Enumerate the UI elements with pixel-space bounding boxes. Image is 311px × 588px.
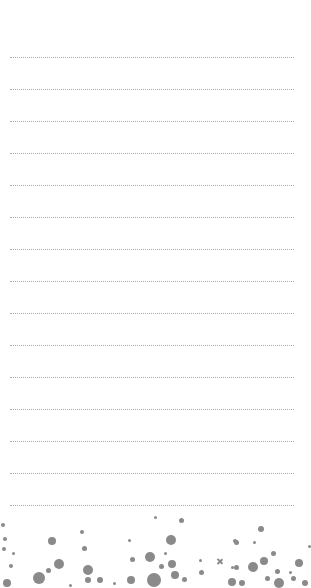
confetti-decoration (0, 0, 310, 586)
ruled-line (10, 313, 294, 314)
confetti-dot-icon (48, 537, 56, 545)
confetti-dot-icon (97, 577, 103, 583)
confetti-dot-icon (199, 559, 202, 562)
ruled-line (10, 89, 294, 90)
ruled-line (10, 153, 294, 154)
confetti-dot-icon (233, 539, 237, 543)
confetti-dot-icon (33, 572, 45, 584)
confetti-dot-icon (54, 559, 64, 569)
confetti-dot-icon (127, 576, 135, 584)
confetti-dot-icon (3, 579, 11, 587)
confetti-dot-icon (2, 547, 6, 551)
confetti-dot-icon (12, 552, 15, 555)
confetti-dot-icon (166, 535, 176, 545)
confetti-dot-icon (69, 584, 72, 587)
confetti-cross-icon (216, 558, 223, 565)
ruled-line (10, 185, 294, 186)
confetti-dot-icon (199, 570, 204, 575)
ruled-line (10, 249, 294, 250)
confetti-dot-icon (295, 559, 303, 567)
confetti-dot-icon (171, 571, 179, 579)
confetti-dot-icon (234, 565, 239, 570)
ruled-line (10, 217, 294, 218)
confetti-dot-icon (145, 552, 155, 562)
confetti-dot-icon (271, 551, 276, 556)
confetti-dot-icon (228, 578, 236, 586)
ruled-line (10, 345, 294, 346)
confetti-dot-icon (258, 526, 264, 532)
confetti-dot-icon (182, 577, 187, 582)
confetti-dot-icon (85, 577, 91, 583)
confetti-dot-icon (248, 562, 258, 572)
confetti-dot-icon (234, 540, 239, 545)
confetti-dot-icon (253, 541, 256, 544)
ruled-line (10, 473, 294, 474)
confetti-dot-icon (168, 560, 176, 568)
ruled-line (10, 377, 294, 378)
confetti-dot-icon (9, 564, 13, 568)
confetti-dot-icon (239, 580, 245, 586)
confetti-dot-icon (113, 582, 116, 585)
confetti-dot-icon (46, 568, 51, 573)
ruled-line (10, 505, 294, 506)
confetti-dot-icon (130, 557, 135, 562)
confetti-dot-icon (265, 576, 270, 581)
confetti-dot-icon (179, 518, 184, 523)
ruled-line (10, 281, 294, 282)
confetti-dot-icon (80, 530, 84, 534)
confetti-dot-icon (289, 571, 292, 574)
ruled-line (10, 121, 294, 122)
ruled-line (10, 409, 294, 410)
confetti-dot-icon (291, 576, 296, 581)
confetti-dot-icon (164, 552, 167, 555)
ruled-line (10, 57, 294, 58)
confetti-dot-icon (154, 516, 157, 519)
ruled-line (10, 441, 294, 442)
confetti-dot-icon (147, 573, 161, 587)
confetti-dot-icon (231, 566, 234, 569)
confetti-dot-icon (83, 565, 93, 575)
confetti-dot-icon (274, 578, 284, 588)
confetti-dot-icon (3, 537, 7, 541)
confetti-dot-icon (128, 539, 131, 542)
confetti-dot-icon (260, 557, 268, 565)
confetti-dot-icon (275, 569, 280, 574)
confetti-dot-icon (159, 564, 164, 569)
confetti-dot-icon (308, 545, 311, 548)
confetti-dot-icon (302, 580, 308, 586)
confetti-dot-icon (82, 546, 87, 551)
confetti-dot-icon (1, 523, 5, 527)
notepad-page (0, 0, 310, 586)
